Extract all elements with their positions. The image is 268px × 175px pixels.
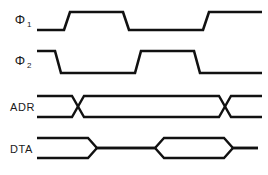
- signal-label-adr: ADR: [10, 101, 35, 113]
- signal-label-dta: DTA: [10, 143, 33, 155]
- timing-diagram-container: Φ 1 Φ 2 ADR DTA: [0, 0, 268, 175]
- timing-diagram-canvas: Φ 1 Φ 2 ADR DTA: [0, 0, 268, 175]
- signal-label-phi2-subscript: 2: [27, 61, 32, 70]
- signal-label-phi2: Φ: [15, 53, 25, 68]
- signal-label-phi1-subscript: 1: [27, 20, 32, 29]
- signal-label-phi1: Φ: [15, 12, 25, 27]
